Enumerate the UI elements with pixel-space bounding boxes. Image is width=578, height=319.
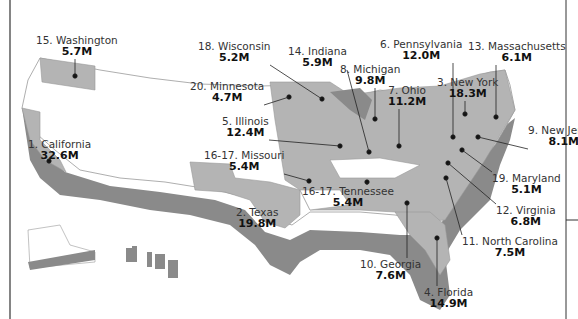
state-label: 7. Ohio11.2M bbox=[388, 84, 426, 109]
state-population: 4.7M bbox=[190, 92, 264, 105]
state-population: 5.4M bbox=[204, 161, 284, 174]
state-label: 12. Virginia6.8M bbox=[496, 204, 556, 229]
state-population: 5.2M bbox=[198, 52, 270, 65]
state-population: 6.1M bbox=[468, 52, 566, 65]
state-population: 11.2M bbox=[388, 96, 426, 109]
state-label: 2. Texas19.8M bbox=[236, 206, 278, 231]
state-label: 14. Indiana5.9M bbox=[288, 45, 347, 70]
state-label: 4. Florida14.9M bbox=[424, 286, 473, 311]
state-population: 12.4M bbox=[222, 127, 269, 140]
state-population: 9.8M bbox=[340, 75, 400, 88]
state-label: 3. New York18.3M bbox=[437, 76, 498, 101]
state-label: 9. New Jersey8.1M bbox=[528, 124, 578, 149]
state-label: 18. Wisconsin5.2M bbox=[198, 40, 270, 65]
state-label: 10. Georgia7.6M bbox=[360, 258, 421, 283]
state-label: 15. Washington5.7M bbox=[36, 34, 118, 59]
state-label: 16-17. Missouri5.4M bbox=[204, 149, 284, 174]
state-population: 8.1M bbox=[528, 136, 578, 149]
state-population: 14.9M bbox=[424, 298, 473, 311]
state-label: 16-17. Tennessee5.4M bbox=[302, 185, 394, 210]
state-population: 6.8M bbox=[496, 216, 556, 229]
state-population: 32.6M bbox=[28, 150, 91, 163]
state-label: 5. Illinois12.4M bbox=[222, 115, 269, 140]
state-label: 1. California32.6M bbox=[28, 138, 91, 163]
state-label: 6. Pennsylvania12.0M bbox=[380, 38, 462, 63]
state-population: 7.6M bbox=[360, 270, 421, 283]
state-label: 19. Maryland5.1M bbox=[492, 172, 561, 197]
state-population: 5.7M bbox=[36, 46, 118, 59]
state-population: 5.4M bbox=[302, 197, 394, 210]
state-label: 8. Michigan9.8M bbox=[340, 63, 400, 88]
state-label: 11. North Carolina7.5M bbox=[462, 235, 558, 260]
state-population: 5.9M bbox=[288, 57, 347, 70]
state-population: 19.8M bbox=[236, 218, 278, 231]
state-label: 20. Minnesota4.7M bbox=[190, 80, 264, 105]
state-population: 7.5M bbox=[462, 247, 558, 260]
state-population: 12.0M bbox=[380, 50, 462, 63]
state-label: 13. Massachusetts6.1M bbox=[468, 40, 566, 65]
state-population: 5.1M bbox=[492, 184, 561, 197]
state-population: 18.3M bbox=[437, 88, 498, 101]
